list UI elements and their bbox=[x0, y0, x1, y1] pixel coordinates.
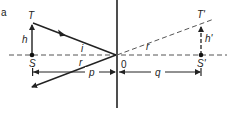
panel-label: a bbox=[1, 7, 7, 18]
image-base-point bbox=[199, 53, 204, 58]
label-image-top: T' bbox=[197, 9, 206, 20]
object-base-point bbox=[30, 53, 35, 58]
label-object-base: S bbox=[29, 58, 36, 69]
label-object-height: h bbox=[22, 34, 28, 45]
reflected-ray bbox=[32, 55, 116, 87]
label-image-base: S' bbox=[197, 58, 207, 69]
label-object-top: T bbox=[28, 10, 35, 21]
label-object-distance: p bbox=[88, 67, 95, 78]
label-origin: 0 bbox=[121, 59, 127, 70]
label-reflected-angle: r bbox=[79, 57, 83, 68]
label-image-distance: q bbox=[155, 67, 161, 78]
label-incident-angle: i bbox=[81, 43, 84, 54]
incident-ray bbox=[33, 23, 116, 55]
virtual-ray bbox=[117, 19, 214, 55]
plane-mirror-reflection-diagram: a T h S i r r 0 p q T' h' S' bbox=[0, 0, 227, 114]
incident-ray-arrow-icon bbox=[58, 30, 66, 37]
label-image-height: h' bbox=[205, 33, 214, 44]
